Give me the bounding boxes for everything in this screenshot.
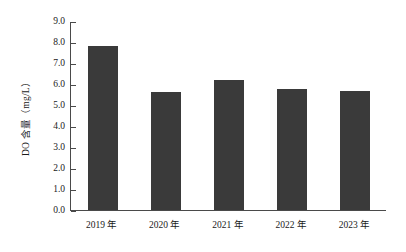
bar	[340, 91, 370, 210]
y-axis-tick-label: 0.0	[31, 206, 65, 216]
y-axis-tick	[71, 43, 76, 44]
bar	[214, 80, 244, 210]
y-axis-tick	[71, 22, 76, 23]
y-axis-tick-label: 5.0	[31, 101, 65, 111]
y-axis-tick-label: 9.0	[31, 17, 65, 27]
y-axis-tick-label: 3.0	[31, 143, 65, 153]
x-axis-tick-label: 2021 年	[198, 221, 258, 231]
y-axis-tick	[71, 106, 76, 107]
y-axis-tick-label: 6.0	[31, 80, 65, 90]
bar	[88, 46, 118, 210]
x-axis-tick-label: 2023 年	[324, 221, 384, 231]
y-axis-tick	[71, 148, 76, 149]
x-axis-tick-label: 2020 年	[135, 221, 195, 231]
x-axis-tick-label: 2019 年	[72, 221, 132, 231]
y-axis-tick	[71, 85, 76, 86]
y-axis-tick	[71, 190, 76, 191]
y-axis-title-text: DO 含量（mg/L）	[14, 22, 36, 211]
bar-chart-figure: DO 含量（mg/L） 0.01.02.03.04.05.06.07.08.09…	[0, 0, 406, 252]
y-axis-tick-label: 7.0	[31, 59, 65, 69]
y-axis-tick	[71, 64, 76, 65]
bar	[277, 89, 307, 210]
y-axis-tick	[71, 211, 76, 212]
y-axis-tick	[71, 169, 76, 170]
y-axis-tick-label: 1.0	[31, 185, 65, 195]
y-axis-tick	[71, 127, 76, 128]
x-axis-tick-label: 2022 年	[261, 221, 321, 231]
y-axis-tick-label: 2.0	[31, 164, 65, 174]
plot-area	[70, 22, 386, 211]
y-axis-title: DO 含量（mg/L）	[14, 22, 36, 211]
y-axis-tick-label: 4.0	[31, 122, 65, 132]
y-axis-tick-label: 8.0	[31, 38, 65, 48]
bar	[151, 92, 181, 210]
